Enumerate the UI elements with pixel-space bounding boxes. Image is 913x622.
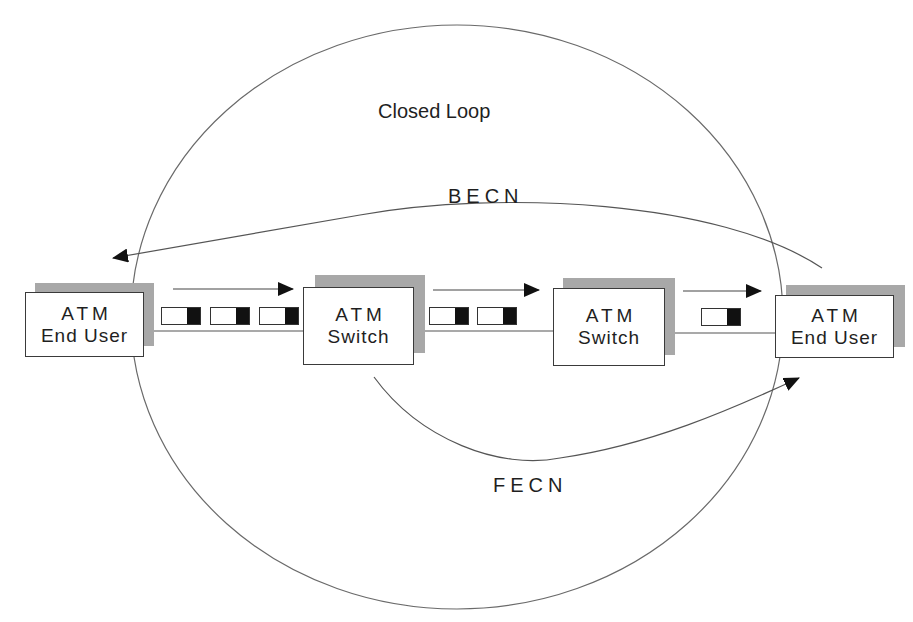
cell-header <box>236 308 249 324</box>
node-label-line2: Switch <box>578 327 640 349</box>
node-box: ATM Switch <box>303 287 414 365</box>
becn-label: BECN <box>448 185 524 208</box>
node-label-line2: End User <box>41 325 128 347</box>
node-label-line1: ATM <box>331 304 386 326</box>
atm-cell <box>429 307 469 325</box>
atm-switch-1: ATM Switch <box>303 275 428 367</box>
node-label-line1: ATM <box>57 303 112 325</box>
atm-cell <box>477 307 517 325</box>
fecn-arrow <box>374 377 799 461</box>
atm-cell <box>161 307 201 325</box>
node-box: ATM Switch <box>553 288 665 366</box>
atm-cell <box>210 307 250 325</box>
node-box: ATM End User <box>775 295 894 358</box>
atm-cell <box>701 308 741 326</box>
becn-arrow <box>113 203 822 268</box>
node-label-line1: ATM <box>807 305 862 327</box>
cell-header <box>455 308 468 324</box>
cell-header <box>285 308 298 324</box>
closed-loop-title: Closed Loop <box>378 100 490 123</box>
cell-header <box>187 308 200 324</box>
atm-end-user-right: ATM End User <box>775 285 910 360</box>
node-label-line2: Switch <box>328 326 390 348</box>
atm-cell <box>259 307 299 325</box>
atm-switch-2: ATM Switch <box>553 278 678 370</box>
cell-header <box>727 309 740 325</box>
cell-header <box>503 308 516 324</box>
node-label-line2: End User <box>791 327 878 349</box>
fecn-label: FECN <box>493 474 567 497</box>
atm-end-user-left: ATM End User <box>25 283 155 358</box>
node-label-line1: ATM <box>582 305 637 327</box>
node-box: ATM End User <box>25 292 144 357</box>
